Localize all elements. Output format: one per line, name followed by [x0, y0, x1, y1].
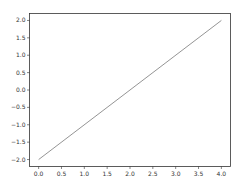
x-tick-label: 3.0	[171, 170, 181, 177]
x-tick-label: 0.5	[57, 170, 67, 177]
y-tick-label: −0.5	[11, 103, 26, 110]
y-tick-label: 1.5	[16, 34, 26, 41]
x-tick-label: 0.0	[34, 170, 44, 177]
x-tick-label: 1.5	[102, 170, 112, 177]
y-tick-label: 0.5	[16, 69, 26, 76]
y-tick-label: −2.0	[11, 156, 26, 163]
y-tick-label: 0.0	[16, 86, 26, 93]
x-tick-label: 3.5	[194, 170, 204, 177]
plot-background	[0, 0, 242, 188]
line-chart: 0.00.51.01.52.02.53.03.54.0 −2.0−1.5−1.0…	[0, 0, 242, 188]
x-tick-label: 1.0	[80, 170, 90, 177]
x-tick-label: 4.0	[217, 170, 227, 177]
x-tick-label: 2.5	[148, 170, 158, 177]
y-tick-label: −1.5	[11, 138, 26, 145]
y-tick-label: 1.0	[16, 51, 26, 58]
x-tick-label: 2.0	[125, 170, 135, 177]
y-tick-label: 2.0	[16, 16, 26, 23]
y-tick-label: −1.0	[11, 121, 26, 128]
